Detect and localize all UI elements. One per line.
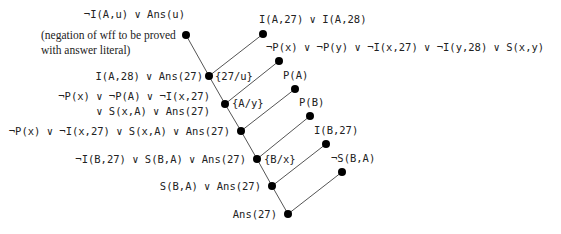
edge-f5-r5 — [272, 144, 326, 186]
label-f6: ¬S(B,A) — [331, 152, 375, 164]
node-r1 — [205, 72, 213, 80]
label-f2: ¬P(x) ∨ ¬P(y) ∨ ¬I(x,27) ∨ ¬I(y,28) ∨ S(… — [266, 41, 544, 53]
node-f3 — [291, 85, 299, 93]
label-f5: I(B,27) — [314, 124, 358, 136]
edge-f3-r3 — [241, 89, 295, 131]
node-r6 — [284, 210, 292, 218]
label-r2-line2: ∨ S(x,A) ∨ Ans(27) — [96, 105, 210, 117]
node-f5 — [322, 140, 330, 148]
edge-f6-r6 — [288, 172, 342, 214]
subst-r4: {B/x} — [264, 153, 296, 165]
node-f6 — [338, 168, 346, 176]
node-r5 — [268, 182, 276, 190]
node-f1 — [259, 30, 267, 38]
node-f2 — [275, 57, 283, 65]
subst-r2: {A/y} — [232, 97, 264, 109]
label-r2-line1: ¬P(x) ∨ ¬P(A) ∨ ¬I(x,27) — [58, 90, 210, 102]
node-r3 — [237, 127, 245, 135]
label-r6: Ans(27) — [233, 208, 277, 220]
subst-r1: {27/u} — [215, 70, 253, 82]
label-f1: I(A,27) ∨ I(A,28) — [259, 13, 366, 25]
label-r3: ¬P(x) ∨ ¬I(x,27) ∨ S(x,A) ∨ Ans(27) — [9, 125, 230, 137]
label-f4: P(B) — [299, 96, 324, 108]
node-f4 — [306, 112, 314, 120]
note-goal-line2: with answer literal) — [41, 44, 130, 56]
label-f3: P(A) — [283, 69, 308, 81]
label-r5: S(B,A) ∨ Ans(27) — [160, 180, 261, 192]
label-goal: ¬I(A,u) ∨ Ans(u) — [84, 8, 185, 20]
node-r4 — [253, 155, 261, 163]
label-r1: I(A,28) ∨ Ans(27) — [96, 70, 203, 82]
node-goal — [182, 31, 190, 39]
label-r4: ¬I(B,27) ∨ S(B,A) ∨ Ans(27) — [75, 153, 246, 165]
node-r2 — [221, 100, 229, 108]
note-goal-line1: (negation of wff to be proved — [41, 29, 176, 41]
